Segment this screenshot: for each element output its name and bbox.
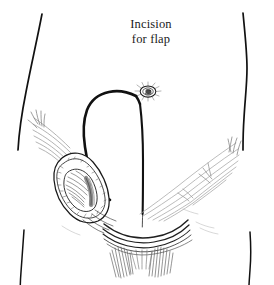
caption-block: Incision for flap — [96, 17, 206, 47]
figure-root: • — [0, 0, 274, 285]
caption-line-1: Incision — [96, 17, 206, 32]
caption-line-2: for flap — [96, 32, 206, 47]
